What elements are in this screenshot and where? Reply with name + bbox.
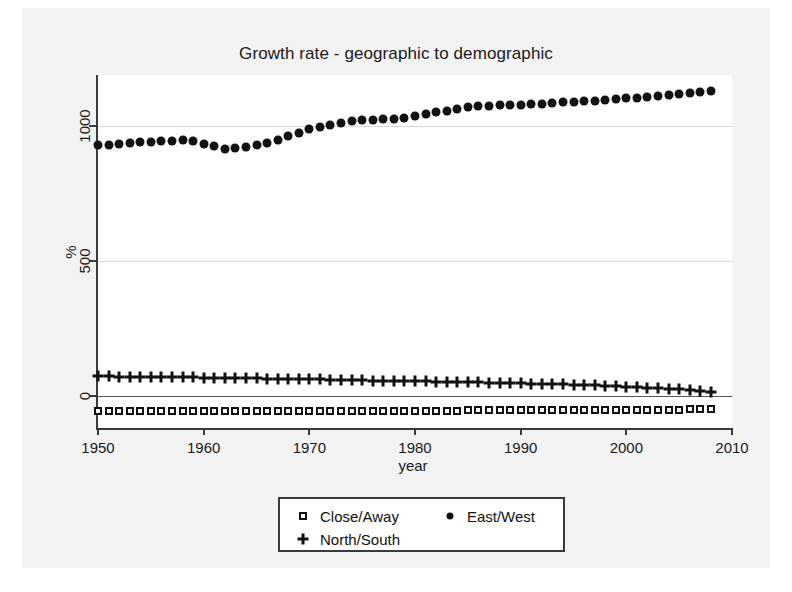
data-point — [685, 88, 694, 97]
x-axis-tick — [308, 428, 310, 435]
data-point — [188, 372, 199, 383]
data-point — [548, 99, 557, 108]
data-point — [274, 407, 282, 415]
data-point — [474, 406, 482, 414]
data-point — [579, 379, 590, 390]
legend-label-north-south: North/South — [320, 531, 400, 548]
data-point — [495, 101, 504, 110]
data-point — [610, 380, 621, 391]
data-point — [464, 406, 472, 414]
data-point — [684, 385, 695, 396]
data-point — [453, 104, 462, 113]
figure-panel: Growth rate - geographic to demographic … — [22, 8, 770, 568]
chart-legend: Close/Away East/West North/South — [278, 497, 565, 552]
data-point — [517, 406, 525, 414]
data-point — [167, 136, 176, 145]
data-point — [547, 379, 558, 390]
data-point — [219, 372, 230, 383]
data-point — [378, 375, 389, 386]
legend-label-east-west: East/West — [467, 508, 535, 525]
data-point — [675, 89, 684, 98]
data-point — [431, 376, 442, 387]
data-point — [135, 371, 146, 382]
data-point — [230, 373, 241, 384]
data-point — [590, 96, 599, 105]
data-point — [665, 406, 673, 414]
data-point — [263, 407, 271, 415]
data-point — [200, 407, 208, 415]
data-point — [601, 96, 610, 105]
data-point — [273, 136, 282, 145]
data-point — [432, 108, 441, 117]
data-point — [104, 141, 113, 150]
data-point — [305, 125, 314, 134]
data-point — [358, 116, 367, 125]
data-point — [591, 406, 599, 414]
data-point — [611, 95, 620, 104]
data-point — [136, 407, 144, 415]
x-axis-tick-label: 1990 — [504, 439, 537, 456]
legend-row-2: North/South — [296, 528, 400, 550]
data-point — [347, 117, 356, 126]
data-point — [537, 99, 546, 108]
data-point — [179, 407, 187, 415]
data-point — [389, 114, 398, 123]
data-point — [612, 406, 620, 414]
legend-entry-north-south[interactable]: North/South — [296, 531, 400, 548]
data-point — [452, 376, 463, 387]
data-point — [390, 407, 398, 415]
x-axis-tick — [414, 428, 416, 435]
data-point — [284, 132, 293, 141]
data-point — [253, 407, 261, 415]
data-point — [210, 407, 218, 415]
x-axis-title: year — [96, 457, 730, 474]
data-point — [538, 406, 546, 414]
data-point — [304, 374, 315, 385]
data-point — [420, 376, 431, 387]
data-point — [442, 106, 451, 115]
data-point — [210, 142, 219, 151]
data-point — [178, 136, 187, 145]
data-point — [696, 405, 704, 413]
data-point — [601, 406, 609, 414]
data-point — [157, 407, 165, 415]
data-point — [463, 103, 472, 112]
data-point — [484, 101, 493, 110]
data-point — [369, 407, 377, 415]
data-point — [664, 90, 673, 99]
data-point — [168, 407, 176, 415]
data-point — [400, 407, 408, 415]
data-point — [305, 407, 313, 415]
data-point — [675, 406, 683, 414]
data-point — [272, 373, 283, 384]
data-point — [115, 407, 123, 415]
data-point — [453, 407, 461, 415]
data-point — [157, 137, 166, 146]
data-point — [105, 407, 113, 415]
filled-circle-icon — [443, 509, 457, 523]
data-point — [559, 406, 567, 414]
x-axis-tick-label: 1970 — [293, 439, 326, 456]
data-point — [209, 372, 220, 383]
data-point — [262, 373, 273, 384]
data-point — [252, 141, 261, 150]
figure-page: Growth rate - geographic to demographic … — [0, 0, 792, 592]
legend-entry-close-away[interactable]: Close/Away — [296, 508, 399, 525]
y-axis-tick-label: 0 — [76, 391, 93, 399]
data-point — [589, 380, 600, 391]
data-point — [124, 371, 135, 382]
data-point — [506, 100, 515, 109]
data-point — [526, 378, 537, 389]
data-point — [115, 139, 124, 148]
legend-entry-east-west[interactable]: East/West — [443, 508, 535, 525]
legend-label-close-away: Close/Away — [320, 508, 399, 525]
data-point — [441, 376, 452, 387]
data-point — [220, 144, 229, 153]
data-point — [241, 143, 250, 152]
data-point — [568, 379, 579, 390]
data-point — [580, 97, 589, 106]
gridline — [98, 261, 732, 262]
data-point — [411, 407, 419, 415]
data-point — [432, 407, 440, 415]
data-point — [643, 93, 652, 102]
